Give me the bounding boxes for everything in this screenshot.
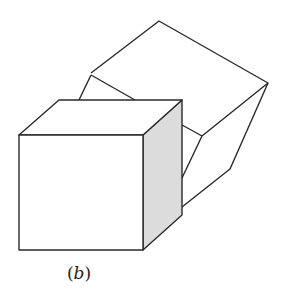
cubes-diagram [0,0,291,290]
back-cube-inner-edge-2 [182,125,202,136]
back-cube-vertical-edge [182,136,202,178]
back-cube-right-face [182,83,268,207]
front-cube-front-face [19,135,143,250]
front-cube [19,100,182,250]
back-cube-inner-edge [91,75,135,100]
back-cube-left-edge [79,75,91,100]
figure-caption: (b) [64,263,94,283]
